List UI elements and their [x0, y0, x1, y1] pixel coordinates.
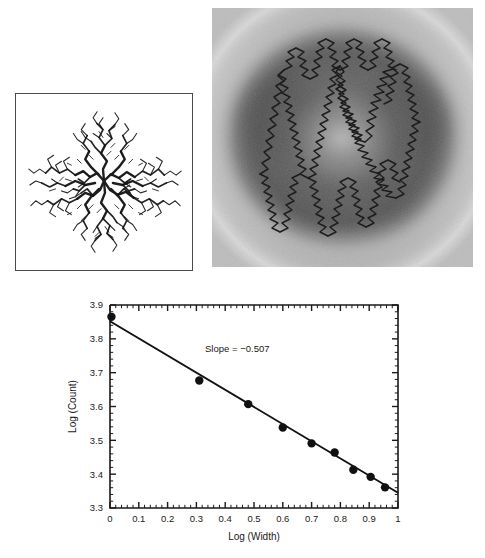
data-point [195, 376, 203, 384]
data-point [366, 473, 374, 481]
y-tick-label: 3.9 [90, 299, 103, 310]
y-axis-ticks-right [392, 305, 398, 508]
y-tick-label: 3.5 [90, 435, 103, 446]
x-tick-label: 0.3 [190, 513, 203, 524]
data-point [279, 423, 287, 431]
x-axis-tick-labels: 00.10.20.30.40.50.60.70.80.91 [107, 513, 400, 524]
slope-annotation: Slope = −0.507 [205, 343, 269, 354]
x-tick-label: 0.6 [276, 513, 289, 524]
x-tick-label: 0.2 [161, 513, 174, 524]
data-point [107, 313, 115, 321]
x-tick-label: 0.9 [363, 513, 376, 524]
x-tick-label: 0.4 [219, 513, 232, 524]
x-tick-label: 0 [107, 513, 112, 524]
data-point [349, 466, 357, 474]
x-axis-ticks-bottom [110, 502, 398, 508]
loglog-plot-panel: 00.10.20.30.40.50.60.70.80.91 3.33.43.53… [52, 288, 420, 556]
y-axis-title: Log (Count) [67, 380, 78, 433]
y-tick-label: 3.7 [90, 367, 103, 378]
loglog-plot: 00.10.20.30.40.50.60.70.80.91 3.33.43.53… [52, 288, 420, 556]
dla-cluster-panel [15, 93, 193, 271]
x-tick-label: 0.7 [305, 513, 318, 524]
y-axis-ticks-left [110, 305, 116, 508]
x-tick-label: 0.1 [132, 513, 145, 524]
x-axis-title: Log (Width) [228, 531, 280, 542]
y-tick-label: 3.6 [90, 401, 103, 412]
y-tick-label: 3.4 [90, 469, 103, 480]
data-point-series [107, 313, 389, 492]
data-point [330, 448, 338, 456]
data-point [307, 439, 315, 447]
grayscale-fractal-field-image [212, 8, 473, 267]
x-axis-ticks-top [110, 305, 398, 311]
grayscale-fractal-field-panel [212, 8, 473, 267]
y-axis-tick-labels: 3.33.43.53.63.73.83.9 [90, 299, 103, 513]
dla-cluster-image [16, 94, 192, 270]
x-tick-label: 1 [395, 513, 400, 524]
x-tick-label: 0.8 [334, 513, 347, 524]
field-grain [212, 8, 473, 267]
y-tick-label: 3.3 [90, 502, 103, 513]
y-tick-label: 3.8 [90, 333, 103, 344]
x-tick-label: 0.5 [247, 513, 260, 524]
data-point [244, 400, 252, 408]
data-point [381, 483, 389, 491]
